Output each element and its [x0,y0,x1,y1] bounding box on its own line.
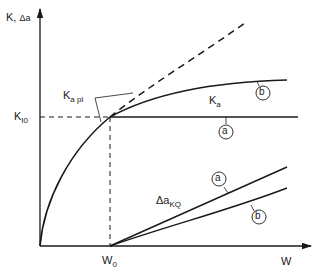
delta-a-kq-label-main: Δa [156,194,169,206]
k-a-pl-leader-2 [95,98,101,122]
y-axis-label-k: K, [6,11,19,23]
delta-a-kq-label: ΔaKQ [156,195,181,206]
w0-label-sub: 0 [112,260,116,269]
w0-label-main: W [102,254,112,266]
k-a-label-sub: a [216,100,220,109]
x-axis-label: W [281,256,291,267]
k-a-pl-label: Ka pl [63,90,83,101]
y-axis-label: K, Δa [6,12,30,23]
delta-a-kq-label-sub: KQ [169,200,181,209]
w0-label: W0 [102,255,117,266]
k-a-pl-label-sub: a pl [70,95,83,104]
delta-a-line-a [110,167,287,246]
k-extrapolated-dashed-curve [110,23,245,117]
k-i0-label-sub: I0 [21,116,28,125]
marker-horizontal-a-letter: a [222,126,228,136]
diagram-canvas [0,0,325,274]
marker-upper-b-letter: b [259,87,265,97]
k-rising-curve [40,117,110,246]
k-a-pl-leader-1 [95,93,133,98]
k-a-label: Ka [209,95,221,106]
k-i0-label: KI0 [14,111,28,122]
y-axis-label-delta-a: Δa [19,13,30,23]
marker-delta-b-letter: b [255,211,261,221]
marker-delta-a-letter: a [215,173,221,183]
